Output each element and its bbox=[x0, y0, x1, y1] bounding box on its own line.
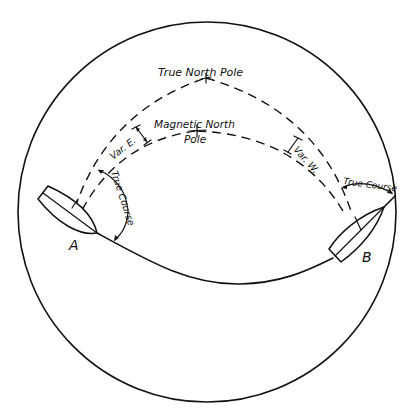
magnetic-north-pole-label-line2: Pole bbox=[184, 133, 206, 145]
variation-west-label: Var. W. bbox=[292, 144, 322, 175]
navigation-globe-diagram: True North Pole Magnetic North Pole Var.… bbox=[0, 0, 410, 418]
point-a-label: A bbox=[68, 237, 79, 253]
boat-a bbox=[38, 186, 97, 233]
boat-b bbox=[329, 207, 384, 262]
true-north-pole-label: True North Pole bbox=[158, 66, 243, 79]
variation-east-label: Var. E. bbox=[107, 135, 137, 162]
point-b-label: B bbox=[362, 249, 372, 265]
true-course-label-a: True Course bbox=[109, 169, 137, 227]
true-course-label-b: True Course bbox=[343, 176, 398, 193]
magnetic-north-pole-label-line1: Magnetic North bbox=[154, 118, 235, 130]
